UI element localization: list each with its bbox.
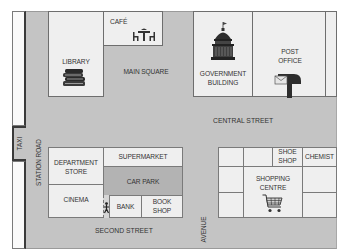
station-strip-bottom (12, 161, 26, 249)
chemist-label: CHEMIST (302, 153, 337, 161)
books-icon (61, 68, 89, 88)
station-strip-top (12, 11, 26, 126)
shoe-shop-label-line1: SHOE (272, 148, 303, 156)
shopping-centre-label-line1: SHOPPING (243, 175, 303, 183)
government-building-label-line2: BUILDING (193, 79, 253, 87)
east-unit-5[interactable] (302, 166, 337, 193)
east-unit-1[interactable] (218, 147, 244, 167)
mailbox-icon (274, 70, 304, 98)
shopping-centre-label-line2: CENTRE (243, 184, 303, 192)
east-unit-3[interactable] (218, 166, 244, 193)
shoe-shop-label-line2: SHOP (272, 157, 303, 165)
east-unit-4[interactable] (218, 192, 244, 218)
department-store-label-line2: STORE (48, 168, 104, 176)
book-shop-label-line1: BOOK (141, 198, 183, 206)
department-store-label-line1: DEPARTMENT (48, 159, 104, 167)
central-street-label: CENTRAL STREET (213, 117, 273, 124)
cafe-label: CAFÉ (110, 18, 132, 26)
station-road-label: STATION ROAD (35, 136, 42, 190)
capitol-dome-icon (210, 21, 236, 61)
bank-label: BANK (109, 203, 142, 211)
cinema-label: CINEMA (48, 196, 104, 204)
car-park-label: CAR PARK (103, 178, 183, 186)
government-building-label-line1: GOVERNMENT (193, 70, 253, 78)
library-label: LIBRARY (48, 58, 104, 66)
avenue-label: AVENUE (200, 213, 207, 247)
main-square-label: MAIN SQUARE (118, 68, 174, 76)
taxi-label: TAXI (16, 132, 23, 156)
supermarket-label: SUPERMARKET (103, 153, 183, 161)
book-shop-label-line2: SHOP (141, 207, 183, 215)
post-office-label-line2: OFFICE (270, 57, 310, 65)
second-street-label: SECOND STREET (95, 227, 153, 234)
east-unit-2[interactable] (243, 147, 273, 167)
east-building-strip (325, 11, 337, 97)
east-unit-6[interactable] (302, 192, 337, 218)
post-office-label-line1: POST (270, 48, 310, 56)
town-map: TAXI LIBRARY CAFÉ MAIN SQUARE (0, 0, 345, 252)
cafe-table-icon (132, 27, 156, 42)
shopping-cart-icon (262, 194, 284, 214)
